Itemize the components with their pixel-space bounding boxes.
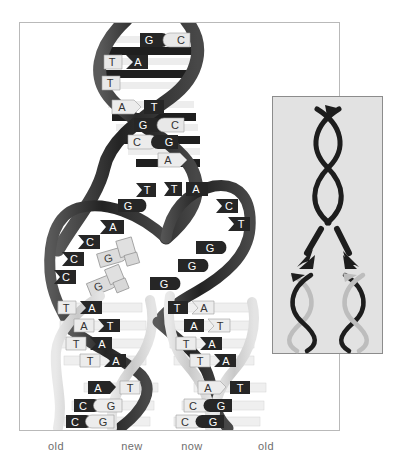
svg-text:A: A bbox=[192, 183, 200, 195]
svg-text:A: A bbox=[88, 302, 96, 314]
svg-text:A: A bbox=[190, 320, 198, 332]
base-letter: C bbox=[133, 136, 141, 148]
base-single: G bbox=[196, 241, 226, 254]
strand-label-new-right: now bbox=[169, 440, 215, 452]
base-single: T bbox=[102, 76, 120, 90]
svg-text:T: T bbox=[87, 355, 94, 367]
dna-replication-figure: G C T A T A bbox=[0, 0, 399, 466]
arrow-right-icon bbox=[337, 229, 359, 269]
svg-text:C: C bbox=[189, 400, 197, 412]
inset-replication-schematic bbox=[273, 97, 384, 355]
svg-text:A: A bbox=[80, 320, 88, 332]
inset-arrows bbox=[297, 229, 359, 269]
svg-text:A: A bbox=[94, 382, 102, 394]
svg-text:C: C bbox=[225, 200, 233, 212]
svg-text:T: T bbox=[144, 184, 151, 196]
base-single: T bbox=[164, 182, 182, 196]
base-pair: C G bbox=[176, 415, 224, 428]
base-single: C bbox=[216, 199, 238, 213]
base-letter: A bbox=[134, 56, 142, 68]
svg-text:G: G bbox=[217, 400, 226, 412]
svg-text:A: A bbox=[109, 221, 117, 233]
base-single: T bbox=[136, 183, 156, 197]
svg-text:A: A bbox=[204, 382, 212, 394]
svg-text:T: T bbox=[63, 302, 70, 314]
svg-text:G: G bbox=[107, 400, 116, 412]
base-single: C bbox=[78, 235, 100, 249]
svg-text:C: C bbox=[71, 416, 79, 428]
svg-text:C: C bbox=[62, 271, 70, 283]
svg-text:C: C bbox=[86, 236, 94, 248]
base-single: C bbox=[54, 270, 76, 284]
base-letter: T bbox=[107, 77, 114, 89]
base-letter: T bbox=[109, 56, 116, 68]
svg-text:G: G bbox=[206, 242, 215, 254]
base-pair: C G bbox=[184, 399, 232, 412]
strand-label-new-left: new bbox=[109, 440, 155, 452]
svg-text:A: A bbox=[112, 355, 120, 367]
svg-text:G: G bbox=[124, 200, 133, 212]
svg-text:A: A bbox=[98, 338, 106, 350]
svg-text:T: T bbox=[183, 338, 190, 350]
svg-text:T: T bbox=[73, 338, 80, 350]
inset-summary-panel bbox=[272, 96, 383, 354]
svg-text:C: C bbox=[181, 416, 189, 428]
arrow-left-icon bbox=[297, 229, 321, 269]
svg-text:T: T bbox=[237, 382, 244, 394]
svg-text:A: A bbox=[208, 338, 216, 350]
base-letter: T bbox=[151, 101, 158, 113]
base-single: C bbox=[62, 252, 84, 266]
svg-text:A: A bbox=[200, 302, 208, 314]
base-single: A bbox=[100, 220, 124, 234]
svg-text:C: C bbox=[70, 253, 78, 265]
base-single: T bbox=[228, 217, 250, 231]
base-single: G bbox=[178, 259, 208, 272]
base-pair: G C bbox=[140, 33, 190, 47]
svg-text:G: G bbox=[99, 416, 108, 428]
inset-daughter-left bbox=[289, 273, 315, 351]
base-pair: G C bbox=[134, 118, 184, 132]
base-letter: G bbox=[139, 119, 148, 131]
base-letter: A bbox=[164, 154, 172, 166]
base-letter: G bbox=[145, 34, 154, 46]
strand-label-old-right: old bbox=[243, 440, 289, 452]
svg-text:T: T bbox=[197, 355, 204, 367]
svg-text:G: G bbox=[188, 260, 197, 272]
base-letter: A bbox=[118, 101, 126, 113]
inset-daughter-right bbox=[341, 273, 367, 351]
svg-text:G: G bbox=[160, 278, 169, 290]
base-single: A bbox=[186, 182, 208, 196]
inset-parent-helix bbox=[315, 105, 342, 223]
base-letter: C bbox=[171, 119, 179, 131]
strand-label-old-left: old bbox=[33, 440, 79, 452]
base-pair: C G bbox=[128, 135, 178, 149]
svg-text:T: T bbox=[238, 218, 245, 230]
base-single: G bbox=[150, 277, 180, 290]
base-letter: C bbox=[177, 34, 185, 46]
base-letter: G bbox=[165, 136, 174, 148]
svg-text:T: T bbox=[217, 320, 224, 332]
base-pair: C G bbox=[74, 399, 122, 412]
base-single: G bbox=[118, 199, 146, 212]
svg-text:C: C bbox=[79, 400, 87, 412]
svg-text:G: G bbox=[209, 416, 218, 428]
svg-text:T: T bbox=[174, 302, 181, 314]
svg-text:T: T bbox=[171, 183, 178, 195]
base-pair: C G bbox=[66, 415, 114, 428]
svg-text:T: T bbox=[127, 382, 134, 394]
svg-text:A: A bbox=[222, 355, 230, 367]
svg-text:T: T bbox=[107, 320, 114, 332]
